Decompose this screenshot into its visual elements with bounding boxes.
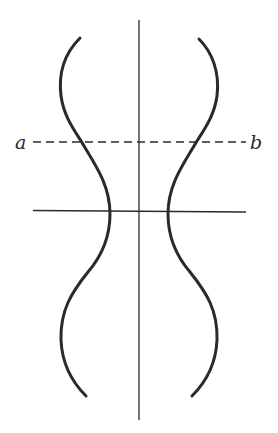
label-b: b — [250, 131, 262, 153]
right-profile-curve — [168, 39, 218, 396]
label-a: a — [15, 131, 26, 153]
left-profile-curve — [60, 38, 110, 396]
horizontal-waist-line — [33, 211, 246, 213]
hourglass-profile-diagram: a b — [0, 0, 278, 433]
